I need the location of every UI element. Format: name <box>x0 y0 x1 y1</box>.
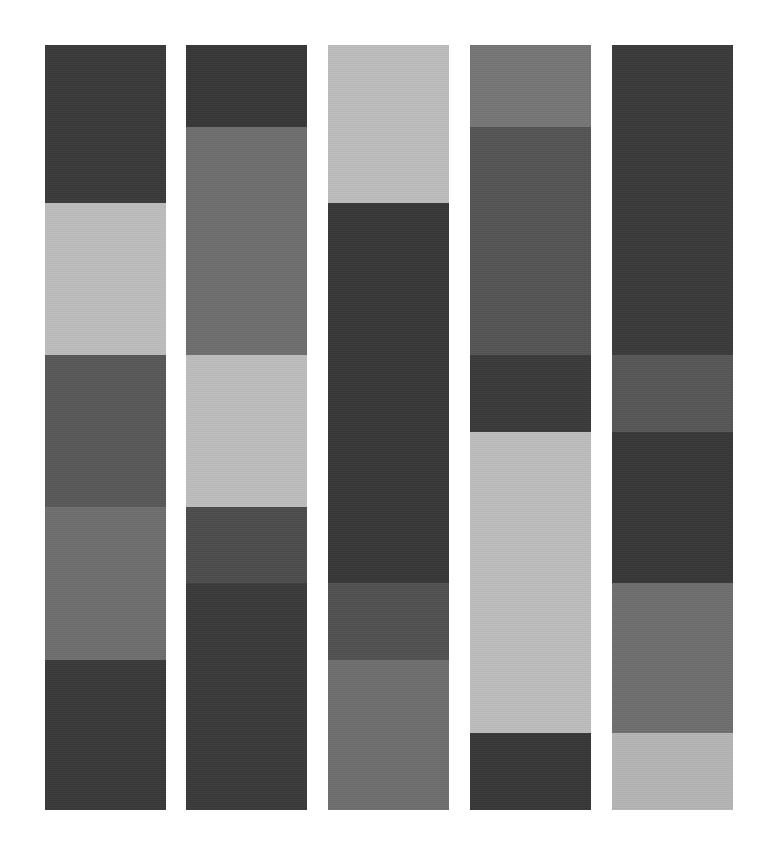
bar-column-2[interactable] <box>186 45 307 810</box>
bar-segment-5-2[interactable] <box>612 355 733 432</box>
bar-segment-1-5[interactable] <box>45 660 166 810</box>
bar-segment-5-5[interactable] <box>612 733 733 810</box>
bar-segment-5-1[interactable] <box>612 45 733 355</box>
bar-column-1[interactable] <box>45 45 166 810</box>
bar-segment-4-5[interactable] <box>470 733 591 810</box>
bar-segment-4-4[interactable] <box>470 432 591 733</box>
bar-segment-1-2[interactable] <box>45 203 166 355</box>
bar-segment-5-4[interactable] <box>612 583 733 733</box>
bar-segment-2-3[interactable] <box>186 355 307 507</box>
bar-segment-3-4[interactable] <box>328 660 449 810</box>
bar-segment-4-1[interactable] <box>470 45 591 127</box>
bar-segment-2-2[interactable] <box>186 127 307 355</box>
bar-segment-1-1[interactable] <box>45 45 166 203</box>
bar-segment-1-4[interactable] <box>45 507 166 660</box>
bar-column-5[interactable] <box>612 45 733 810</box>
bar-segment-4-3[interactable] <box>470 355 591 432</box>
bar-segment-2-5[interactable] <box>186 583 307 810</box>
bar-segment-4-2[interactable] <box>470 127 591 355</box>
bar-column-3[interactable] <box>328 45 449 810</box>
bar-segment-1-3[interactable] <box>45 355 166 507</box>
bar-segment-3-2[interactable] <box>328 203 449 583</box>
bar-column-4[interactable] <box>470 45 591 810</box>
bar-segment-3-3[interactable] <box>328 583 449 660</box>
stacked-bar-chart <box>0 0 774 862</box>
bar-segment-5-3[interactable] <box>612 432 733 583</box>
bar-segment-2-1[interactable] <box>186 45 307 127</box>
screenshot-canvas <box>0 0 774 862</box>
bar-segment-2-4[interactable] <box>186 507 307 583</box>
bar-segment-3-1[interactable] <box>328 45 449 203</box>
